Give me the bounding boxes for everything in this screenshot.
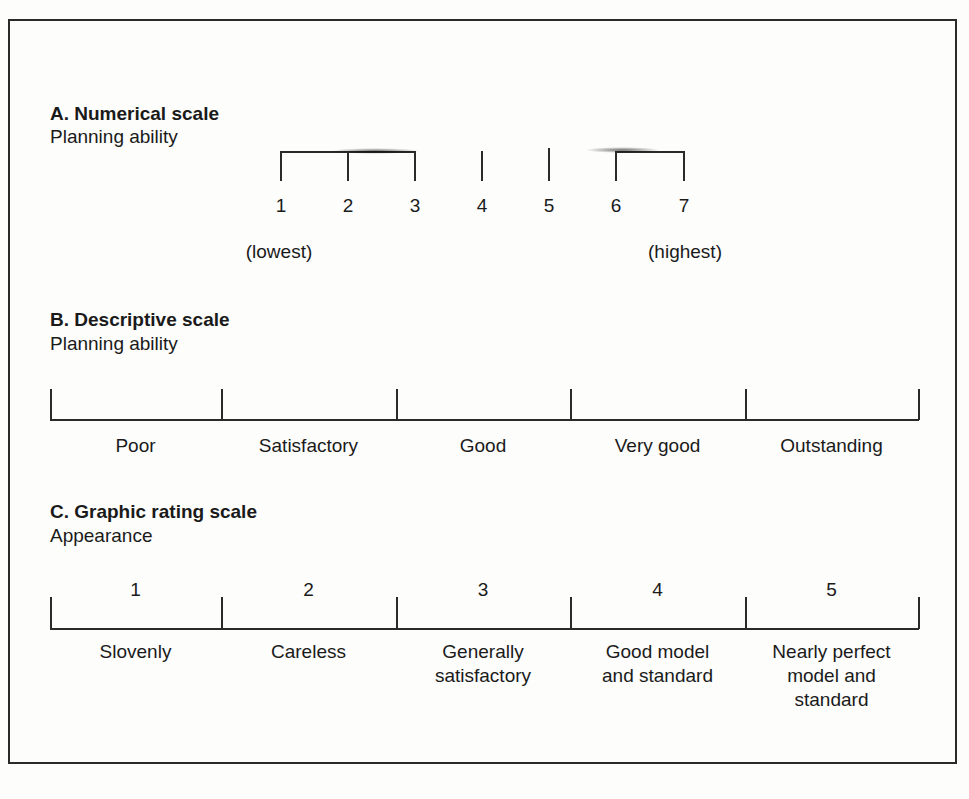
scale-label: Poor	[50, 434, 221, 458]
tick-label: 4	[471, 194, 493, 218]
divider	[50, 389, 52, 420]
scale-label: Good	[396, 434, 570, 458]
divider	[745, 389, 747, 420]
rating-label-line: and standard	[570, 664, 745, 688]
rating-label-line: model and	[745, 664, 918, 688]
divider	[396, 389, 398, 420]
rating-label: Careless	[221, 640, 396, 664]
tick-7	[683, 151, 685, 181]
rating-label-line: Good model	[570, 640, 745, 664]
rating-label-line: satisfactory	[396, 664, 570, 688]
scale-baseline	[50, 628, 919, 630]
tick-2	[347, 151, 349, 181]
print-smudge	[585, 147, 660, 153]
rating-number: 1	[50, 578, 221, 602]
rating-label: Generally satisfactory	[396, 640, 570, 688]
scale-baseline	[50, 419, 919, 421]
tick-label: 3	[404, 194, 426, 218]
rating-label-line: Careless	[221, 640, 396, 664]
rating-label: Good model and standard	[570, 640, 745, 688]
tick-1	[280, 151, 282, 181]
print-smudge	[330, 148, 420, 154]
divider	[918, 389, 920, 420]
rating-label-line: Slovenly	[50, 640, 221, 664]
rating-label: Slovenly	[50, 640, 221, 664]
tick-6	[615, 151, 617, 181]
rating-label-line: Nearly perfect	[745, 640, 918, 664]
rating-label-line: standard	[745, 688, 918, 712]
rating-number: 4	[570, 578, 745, 602]
section-a-title: A. Numerical scale	[50, 103, 219, 125]
section-c-title: C. Graphic rating scale	[50, 501, 257, 523]
section-c-subtitle: Appearance	[50, 525, 152, 547]
divider	[745, 597, 747, 629]
rating-label-line: Generally	[396, 640, 570, 664]
scale-label: Very good	[570, 434, 745, 458]
highest-label: (highest)	[630, 240, 740, 264]
scale-label: Outstanding	[745, 434, 918, 458]
tick-label: 7	[673, 194, 695, 218]
divider	[221, 597, 223, 629]
divider	[50, 597, 52, 629]
tick-label: 1	[270, 194, 292, 218]
rating-number: 5	[745, 578, 918, 602]
tick-label: 6	[605, 194, 627, 218]
section-b-title: B. Descriptive scale	[50, 309, 230, 331]
tick-label: 2	[337, 194, 359, 218]
tick-label: 5	[538, 194, 560, 218]
divider	[918, 597, 920, 629]
rating-label: Nearly perfect model and standard	[745, 640, 918, 712]
section-a-subtitle: Planning ability	[50, 126, 178, 148]
divider	[221, 389, 223, 420]
divider	[570, 389, 572, 420]
tick-3	[414, 151, 416, 181]
tick-5	[548, 148, 550, 181]
lowest-label: (lowest)	[224, 240, 334, 264]
rating-number: 3	[396, 578, 570, 602]
scale-label: Satisfactory	[221, 434, 396, 458]
rating-number: 2	[221, 578, 396, 602]
divider	[570, 597, 572, 629]
tick-4	[481, 151, 483, 181]
section-b-subtitle: Planning ability	[50, 333, 178, 355]
divider	[396, 597, 398, 629]
